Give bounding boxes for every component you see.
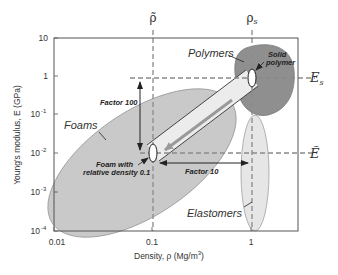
- foams-label: Foams: [64, 119, 98, 131]
- factor-100-label: Factor 100: [100, 98, 138, 107]
- svg-text:-4: -4: [41, 225, 47, 231]
- svg-text:10: 10: [31, 148, 41, 158]
- x-tick-labels: 0.01 0.1 1: [49, 237, 254, 247]
- rho-s-label: ρs: [246, 11, 257, 26]
- y-tick-labels: 10 1 10 -1 10 -2 10 -3 10 -4: [31, 33, 49, 236]
- svg-text:10: 10: [31, 187, 41, 197]
- svg-text:10: 10: [31, 109, 41, 119]
- rho-tilde-label: ρ̃: [149, 11, 156, 25]
- factor-10-label: Factor 10: [185, 167, 219, 176]
- svg-text:-2: -2: [41, 147, 47, 153]
- Es-label: Es: [309, 70, 324, 87]
- foam-point-marker: [149, 144, 157, 162]
- polymers-label: Polymers: [188, 47, 234, 59]
- y-axis-label: Young's modulus, E (GPa): [12, 85, 22, 185]
- svg-text:1: 1: [249, 237, 254, 247]
- solid-polymer-marker: [248, 69, 256, 87]
- elastomers-label: Elastomers: [187, 207, 243, 219]
- solid-polymer-label-2: polymer: [265, 58, 296, 67]
- material-property-chart: 10 1 10 -1 10 -2 10 -3 10 -4 0.01 0.1 1 …: [0, 0, 338, 275]
- svg-text:-3: -3: [41, 186, 47, 192]
- foam-point-label-2: relative density 0.1: [83, 168, 150, 177]
- x-axis-label: Density, ρ (Mg/m3): [134, 250, 204, 261]
- svg-text:0.1: 0.1: [146, 237, 158, 247]
- svg-text:-1: -1: [41, 108, 47, 114]
- elastomers-region: [241, 115, 269, 231]
- svg-text:10: 10: [31, 226, 41, 236]
- E-tilde-label: Ẽ: [309, 146, 320, 161]
- svg-text:10: 10: [39, 33, 49, 43]
- svg-text:1: 1: [43, 71, 48, 81]
- svg-text:0.01: 0.01: [49, 237, 66, 247]
